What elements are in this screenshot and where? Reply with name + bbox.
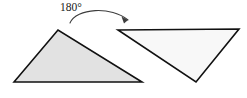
diagram-canvas: 180° (0, 0, 247, 98)
rotation-diagram: 180° (0, 0, 247, 98)
rotation-angle-label: 180° (60, 1, 82, 13)
